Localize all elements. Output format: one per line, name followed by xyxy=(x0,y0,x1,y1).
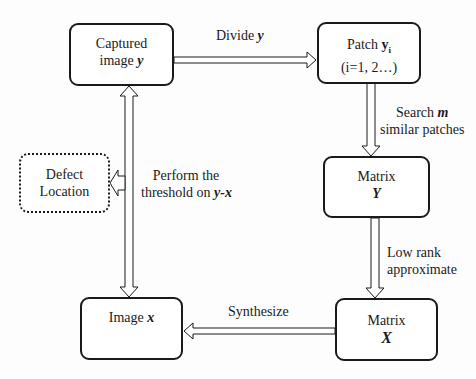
node-captured-image: Captured image y xyxy=(69,23,174,86)
low-rank-line2: approximate xyxy=(387,262,457,277)
image-x-prefix: Image xyxy=(109,310,147,325)
node-matrix-x: Matrix X xyxy=(335,298,438,361)
matrix-y-line1: Matrix xyxy=(357,169,395,184)
arrow-search xyxy=(362,83,380,156)
defect-line1: Defect xyxy=(46,167,83,182)
threshold-var: y-x xyxy=(214,185,232,200)
matrix-x-line1: Matrix xyxy=(367,313,405,328)
node-image-x: Image x xyxy=(80,297,183,360)
label-low-rank: Low rank approximate xyxy=(387,244,457,278)
matrix-x-var: X xyxy=(381,329,392,346)
arrow-to-defect xyxy=(110,170,125,196)
divide-prefix: Divide xyxy=(216,28,258,43)
synthesize-text: Synthesize xyxy=(228,304,289,319)
search-line1-prefix: Search xyxy=(396,105,438,120)
label-search: Search m similar patches xyxy=(380,104,464,138)
captured-var: y xyxy=(137,53,143,68)
arrow-divide xyxy=(174,52,316,68)
threshold-line1: Perform the xyxy=(153,168,219,183)
matrix-y-var: Y xyxy=(372,186,381,201)
captured-line1: Captured xyxy=(96,36,147,51)
arrow-synthesize xyxy=(184,323,335,339)
label-synthesize: Synthesize xyxy=(228,303,289,320)
label-divide: Divide y xyxy=(216,27,264,44)
divide-var: y xyxy=(258,28,264,43)
patch-sub: i xyxy=(389,45,392,55)
diagram-canvas: Captured image y Patch yi (i=1, 2…) Matr… xyxy=(0,0,476,379)
arrow-threshold-bidirectional xyxy=(120,86,138,297)
low-rank-line1: Low rank xyxy=(387,245,441,260)
patch-line2: (i=1, 2…) xyxy=(341,60,397,75)
label-threshold: Perform the threshold on y-x xyxy=(141,167,231,201)
node-patch: Patch yi (i=1, 2…) xyxy=(317,22,421,84)
patch-prefix: Patch xyxy=(347,37,382,52)
threshold-line2-prefix: threshold on xyxy=(141,185,214,200)
search-line2: similar patches xyxy=(380,122,464,137)
arrow-low-rank xyxy=(366,218,384,298)
image-x-var: x xyxy=(147,310,154,325)
defect-line2: Location xyxy=(40,184,90,199)
node-matrix-y: Matrix Y xyxy=(323,156,430,218)
patch-var: y xyxy=(382,37,389,52)
captured-line2-prefix: image xyxy=(100,53,138,68)
search-var: m xyxy=(438,105,449,120)
node-defect-location: Defect Location xyxy=(19,153,110,213)
